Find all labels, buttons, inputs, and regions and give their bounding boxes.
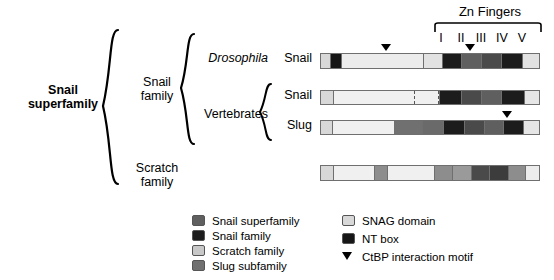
segment-zn-finger-II bbox=[439, 91, 461, 104]
legend-label-snag-domain: SNAG domain bbox=[362, 214, 436, 228]
segment-slug-subfamily-domain bbox=[394, 121, 421, 134]
zn-numeral-III: III bbox=[471, 31, 491, 45]
legend-swatch-slug-subfamily bbox=[192, 260, 205, 271]
legend-label-nt-box: NT box bbox=[362, 232, 399, 246]
zn-numeral-I: I bbox=[432, 31, 450, 45]
legend-label-ctbp-motif: CtBP interaction motif bbox=[362, 250, 473, 264]
zn-numeral-V: V bbox=[513, 31, 531, 45]
ctbp-interaction-motif-marker bbox=[381, 44, 391, 51]
brace-superfamily bbox=[100, 28, 122, 188]
legend-label-snail-superfamily: Snail superfamily bbox=[212, 214, 300, 228]
segment-snag-domain bbox=[321, 54, 330, 68]
brace-vertebrates bbox=[258, 82, 274, 144]
segment-zn-finger-IV bbox=[481, 54, 501, 68]
segment-zn-finger-I-degenerate bbox=[414, 91, 438, 104]
segment-zn-finger-III bbox=[464, 121, 484, 134]
segment-zn-finger-III bbox=[461, 91, 481, 104]
segment-linker bbox=[341, 54, 423, 68]
segment-zn-finger-V bbox=[508, 166, 525, 180]
legend-swatch-scratch-family bbox=[192, 245, 205, 256]
segment-c-terminus bbox=[523, 121, 539, 134]
segment-snag-domain bbox=[321, 166, 333, 180]
segment-c-terminus bbox=[524, 91, 539, 104]
legend-label-snail-family: Snail family bbox=[212, 229, 271, 243]
legend-swatch-nt-box bbox=[342, 233, 355, 244]
segment-zn-finger-V bbox=[503, 121, 524, 134]
segment-zn-finger-IV bbox=[489, 166, 508, 180]
legend-label-scratch-family: Scratch family bbox=[212, 244, 284, 258]
segment-zn-finger-II bbox=[442, 54, 461, 68]
segment-c-terminus bbox=[522, 54, 539, 68]
segment-linker bbox=[333, 91, 415, 104]
legend-swatch-snag-domain bbox=[342, 215, 355, 226]
segment-nt-box bbox=[330, 54, 342, 68]
figure-canvas: Snail superfamily Snail family Scratch f… bbox=[0, 0, 554, 280]
segment-zn-finger-V bbox=[501, 91, 523, 104]
segment-zn-finger-I bbox=[423, 54, 441, 68]
segment-linker-b bbox=[387, 166, 434, 180]
legend-label-slug-subfamily: Slug subfamily bbox=[212, 259, 287, 273]
segment-zn-finger-V bbox=[501, 54, 521, 68]
segment-zn-finger-IV bbox=[481, 91, 501, 104]
protein-bar-scratch[interactable] bbox=[320, 165, 540, 181]
brace-snail-family bbox=[178, 32, 198, 148]
protein-bar-vertebrate-slug[interactable] bbox=[320, 120, 540, 135]
segment-zn-finger-II bbox=[443, 121, 464, 134]
segment-zn-finger-III bbox=[471, 166, 490, 180]
segment-zn-finger-I bbox=[422, 121, 443, 134]
segment-zn-finger-II bbox=[452, 166, 471, 180]
segment-c-terminus bbox=[525, 166, 539, 180]
segment-zn-finger-III bbox=[461, 54, 481, 68]
ctbp-interaction-motif-marker bbox=[502, 111, 512, 118]
row-label-drosophila-snail: Snail bbox=[258, 52, 312, 66]
ctbp-interaction-motif-marker bbox=[465, 44, 475, 51]
legend-swatch-snail-superfamily bbox=[192, 215, 205, 226]
zn-fingers-header: Zn Fingers bbox=[440, 4, 540, 19]
legend-swatch-snail-family bbox=[192, 230, 205, 241]
segment-zn-finger-IV bbox=[484, 121, 503, 134]
legend-swatch-ctbp-motif bbox=[342, 252, 352, 260]
segment-linker-a bbox=[333, 166, 374, 180]
zn-numeral-IV: IV bbox=[492, 31, 512, 45]
protein-bar-drosophila-snail[interactable] bbox=[320, 53, 540, 69]
level2-label-scratch-family: Scratch family bbox=[122, 162, 192, 189]
segment-snag-domain bbox=[321, 121, 332, 134]
segment-snag-domain bbox=[321, 91, 333, 104]
segment-scratch-domain bbox=[374, 166, 387, 180]
protein-bar-vertebrate-snail[interactable] bbox=[320, 90, 540, 105]
segment-zn-finger-I bbox=[434, 166, 453, 180]
segment-linker bbox=[332, 121, 394, 134]
zn-numeral-II: II bbox=[452, 31, 470, 45]
